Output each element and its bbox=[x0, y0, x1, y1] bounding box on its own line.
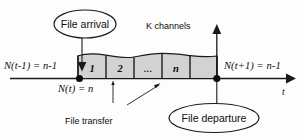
arrival-event-dot bbox=[76, 75, 83, 82]
k-channels-label: K channels bbox=[146, 22, 191, 31]
channel-label-ellipsis: ... bbox=[134, 65, 162, 74]
channel-label-1: 1 bbox=[78, 64, 106, 75]
diagram-canvas: File arrival File departure K channels F… bbox=[0, 0, 305, 140]
departure-callout-label: File departure bbox=[169, 113, 259, 124]
state-label-current: N(t) = n bbox=[58, 84, 93, 95]
channel-label-n: n bbox=[162, 64, 190, 75]
file-transfer-label: File transfer bbox=[65, 117, 113, 126]
arrival-callout-label: File arrival bbox=[54, 19, 116, 30]
state-label-after: N(t+1) = n-1 bbox=[224, 61, 281, 72]
channel-label-2: 2 bbox=[106, 64, 134, 75]
departure-event-dot bbox=[213, 75, 220, 82]
axis-label-t: t bbox=[282, 88, 285, 98]
state-label-before: N(t-1) = n-1 bbox=[4, 61, 57, 72]
file-transfer-leaders bbox=[111, 81, 160, 106]
